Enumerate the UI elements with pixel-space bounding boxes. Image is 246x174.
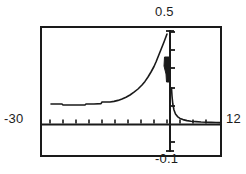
y-min-label: -0.1 bbox=[155, 152, 178, 166]
x-max-label: 12 bbox=[226, 112, 241, 126]
curve-right-branch bbox=[172, 88, 221, 123]
asymptote-saturation-blob bbox=[164, 57, 169, 82]
y-max-label: 0.5 bbox=[155, 5, 174, 19]
plot-canvas bbox=[40, 26, 222, 157]
x-min-label: -30 bbox=[4, 112, 23, 126]
curve-left-branch bbox=[51, 34, 167, 105]
graph-figure: 0.5 -0.1 -30 12 bbox=[0, 0, 246, 174]
